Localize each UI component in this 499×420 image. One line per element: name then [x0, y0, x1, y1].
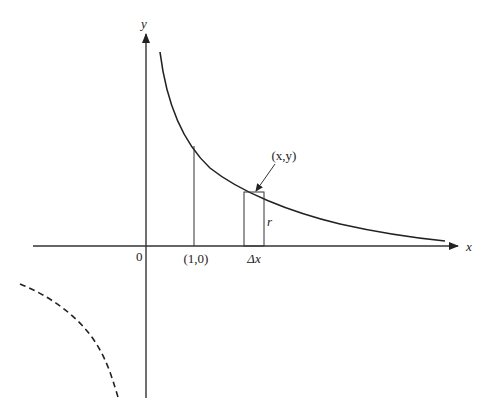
point-xy-label: (x,y)	[272, 148, 297, 163]
r-label: r	[267, 214, 273, 229]
origin-label: 0	[136, 249, 143, 264]
point-pointer-arrow	[256, 164, 275, 191]
area-element-rectangle	[244, 192, 264, 246]
hyperbola-positive-branch	[160, 52, 445, 241]
x-axis-label: x	[465, 239, 472, 254]
hyperbola-diagram: y x 0 (1,0) Δx (x,y) r	[0, 0, 499, 420]
delta-x-label: Δx	[246, 251, 261, 266]
hyperbola-negative-branch	[20, 284, 118, 397]
y-axis-label: y	[139, 16, 147, 31]
point-one-label: (1,0)	[184, 251, 209, 266]
